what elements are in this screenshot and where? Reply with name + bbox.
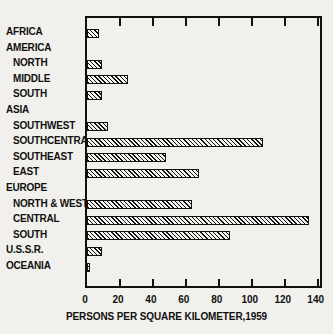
x-tick-top (284, 18, 286, 26)
bar (87, 153, 166, 162)
bar (87, 29, 99, 38)
bar (87, 231, 230, 240)
category-label: AFRICA (6, 27, 43, 37)
category-label: EAST (13, 167, 39, 177)
x-tick-label: 20 (112, 294, 123, 305)
x-tick-bottom (317, 279, 319, 287)
bar (87, 91, 102, 100)
bar (87, 75, 128, 84)
bar (87, 216, 309, 225)
x-tick-label: 60 (178, 294, 189, 305)
category-label: MIDDLE (13, 74, 50, 84)
bar (87, 138, 263, 147)
category-label: OCEANIA (6, 261, 51, 271)
x-tick-label: 100 (241, 294, 258, 305)
x-tick-label: 140 (307, 294, 324, 305)
x-tick-label: 40 (145, 294, 156, 305)
bar (87, 122, 108, 131)
category-label: ASIA (6, 105, 29, 115)
category-label: NORTH & WEST (13, 199, 88, 209)
x-tick-top (317, 18, 319, 26)
x-tick-label: 120 (274, 294, 291, 305)
x-tick-top (152, 18, 154, 26)
bar (87, 200, 192, 209)
category-label-column: AFRICAAMERICANORTHMIDDLESOUTHASIASOUTHWE… (0, 16, 84, 288)
category-label: EUROPE (6, 183, 47, 193)
category-label: AMERICA (6, 43, 51, 53)
x-axis-title: PERSONS PER SQUARE KILOMETER,1959 (0, 311, 333, 322)
category-label: SOUTH (13, 230, 47, 240)
category-label: NORTH (13, 58, 48, 68)
category-label: SOUTH (13, 89, 47, 99)
x-axis-tick-labels: 020406080100120140 (0, 294, 333, 308)
plot-area (85, 16, 322, 288)
x-tick-top (119, 18, 121, 26)
x-tick-bottom (185, 279, 187, 287)
x-tick-bottom (218, 279, 220, 287)
category-label: SOUTHCENTRAL (13, 136, 93, 146)
x-tick-bottom (251, 279, 253, 287)
bar (87, 60, 102, 69)
category-label: U.S.S.R. (6, 245, 43, 255)
population-density-bar-chart: AFRICAAMERICANORTHMIDDLESOUTHASIASOUTHWE… (0, 0, 333, 334)
x-tick-top (251, 18, 253, 26)
bar (87, 247, 102, 256)
x-tick-bottom (284, 279, 286, 287)
x-tick-top (218, 18, 220, 26)
x-tick-bottom (119, 279, 121, 287)
category-label: CENTRAL (13, 214, 59, 224)
x-tick-label: 0 (82, 294, 88, 305)
bar (87, 169, 199, 178)
x-tick-bottom (152, 279, 154, 287)
category-label: SOUTHEAST (13, 152, 73, 162)
x-tick-label: 80 (211, 294, 222, 305)
bar (87, 263, 90, 272)
category-label: SOUTHWEST (13, 121, 75, 131)
bars-container (87, 18, 320, 286)
x-tick-top (185, 18, 187, 26)
